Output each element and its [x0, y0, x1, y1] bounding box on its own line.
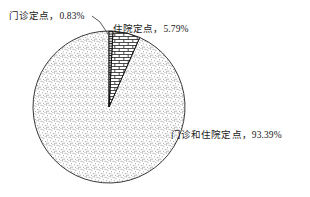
pie-label-inpatient: 住院定点，5.79% [113, 24, 189, 35]
pie-label-outpatient: 门诊定点，0.83% [9, 11, 85, 22]
pie-label-both: 门诊和住院定点，93.39% [171, 130, 282, 141]
pie-chart-figure: 门诊定点，0.83% 住院定点，5.79% 门诊和住院定点，93.39% [0, 0, 310, 197]
